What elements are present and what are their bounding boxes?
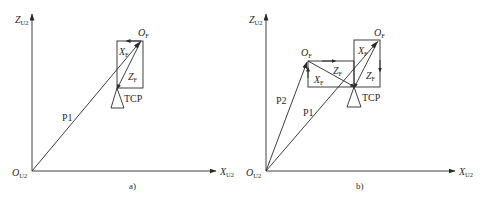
- tcp-label: TCP: [124, 93, 143, 104]
- x-axis-label: XU2: [458, 166, 473, 178]
- frame1-origin-label: OF: [374, 27, 385, 39]
- tcp-triangle: [347, 87, 361, 107]
- panel-a: ZU2 XU2 OU2 OF XF ZF TCP P1 a): [12, 14, 234, 191]
- panel-a-caption: a): [129, 181, 136, 191]
- diagram-canvas: ZU2 XU2 OU2 OF XF ZF TCP P1 a) ZU2 XU2 O…: [0, 0, 481, 202]
- frame2-z-label: ZF: [333, 65, 343, 77]
- panel-b: ZU2 XU2 OU2 OF XF ZF OF XF ZF TCP P2 P1 …: [246, 14, 473, 191]
- vector-p1-label: P1: [62, 112, 73, 123]
- vector-p1-label: P1: [303, 107, 314, 118]
- tcp-label: TCP: [362, 92, 381, 103]
- frame-x-label: XF: [118, 46, 129, 58]
- frame1-z-label: ZF: [366, 70, 376, 82]
- frame-origin-label: OF: [138, 27, 149, 39]
- frame2-origin-label: OF: [301, 47, 312, 59]
- z-axis-label: ZU2: [249, 14, 263, 26]
- origin-label: OU2: [246, 167, 261, 179]
- frame-z-label: ZF: [128, 71, 138, 83]
- x-axis-label: XU2: [219, 166, 234, 178]
- tcp-triangle: [111, 88, 124, 108]
- vector-p2: [266, 62, 307, 171]
- frame1-x-label: XF: [357, 45, 368, 57]
- frame2-x-label: XF: [313, 74, 324, 86]
- vector-p2-label: P2: [276, 95, 287, 106]
- origin-label: OU2: [12, 167, 27, 179]
- panel-b-caption: b): [356, 181, 364, 191]
- z-axis-label: ZU2: [15, 14, 29, 26]
